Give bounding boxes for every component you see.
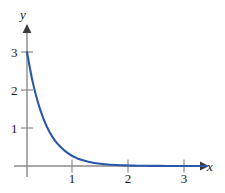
exponential-decay-figure: 1 2 3 1 2 3 x y [0, 0, 225, 193]
x-tick-label-2: 2 [125, 172, 132, 185]
exponential-decay-curve [27, 52, 206, 166]
plot-area [0, 0, 225, 193]
x-tick-label-3: 3 [181, 172, 188, 185]
y-tick-label-1: 1 [11, 122, 18, 135]
y-tick-label-3: 3 [11, 46, 18, 59]
x-tick-label-1: 1 [69, 172, 76, 185]
x-axis-label: x [207, 160, 213, 173]
y-axis-label: y [20, 8, 26, 21]
y-tick-label-2: 2 [11, 84, 18, 97]
y-axis-arrow-icon [23, 24, 32, 33]
